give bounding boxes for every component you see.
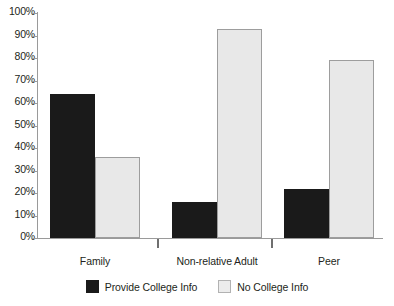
bar-provide-college-info[interactable]: [284, 189, 329, 239]
x-axis-line: [38, 238, 383, 239]
light-swatch: [218, 280, 231, 293]
bar-no-college-info[interactable]: [329, 60, 374, 238]
x-tick-mark: [157, 239, 159, 248]
legend-item[interactable]: No College Info: [218, 280, 308, 293]
chart-canvas: 0%10%20%30%40%50%60%70%80%90%100% Family…: [0, 0, 394, 306]
legend-label: Provide College Info: [105, 281, 198, 293]
y-axis-line: [37, 12, 38, 239]
x-axis-label-peer: Peer: [318, 255, 340, 267]
x-axis-label-family: Family: [80, 255, 110, 267]
x-tick-mark: [271, 239, 273, 248]
bar-group: [0, 0, 394, 238]
chart-legend: Provide College InfoNo College Info: [0, 280, 394, 293]
x-axis-label-non-relative-adult: Non-relative Adult: [176, 255, 257, 267]
dark-swatch: [86, 280, 99, 293]
legend-item[interactable]: Provide College Info: [86, 280, 198, 293]
legend-label: No College Info: [237, 281, 308, 293]
